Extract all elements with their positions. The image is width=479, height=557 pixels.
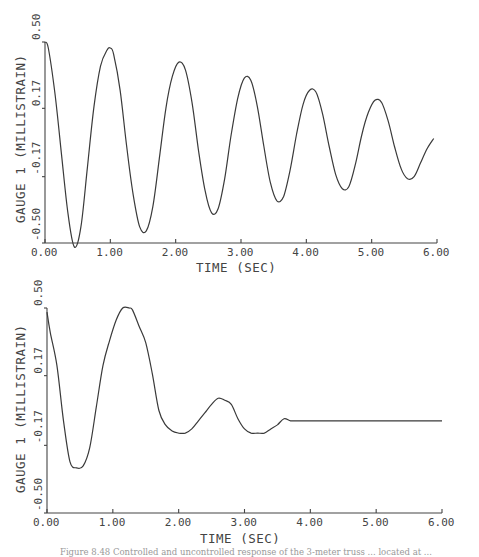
plot-uncontrolled: -0.50-0.170.170.50 0.001.002.003.004.005…	[13, 14, 450, 276]
y-axis-label: GAUGE 1 (MILLISTRAIN)	[13, 324, 28, 493]
x-tick-label: 0.00	[31, 246, 58, 259]
figure-canvas: -0.50-0.170.170.50 0.001.002.003.004.005…	[0, 0, 479, 557]
x-tick-label: 5.00	[358, 246, 385, 259]
x-tick-label: 6.00	[423, 246, 450, 259]
x-tick-label: 6.00	[428, 516, 455, 529]
y-ticks: -0.50-0.170.170.50	[30, 14, 45, 244]
y-tick-label: 0.17	[32, 347, 45, 374]
x-tick-label: 3.00	[227, 246, 254, 259]
y-axis-label: GAUGE 1 (MILLISTRAIN)	[13, 54, 28, 223]
x-tick-label: 5.00	[362, 516, 389, 529]
trace-controlled	[47, 307, 442, 468]
y-tick-label: -0.17	[32, 410, 45, 443]
plot-controlled: -0.50-0.170.170.50 0.001.002.003.004.005…	[13, 280, 455, 547]
x-axis-label: TIME (SEC)	[196, 260, 276, 275]
y-tick-label: 0.50	[30, 14, 43, 41]
x-tick-label: 3.00	[231, 516, 258, 529]
y-tick-label: -0.50	[32, 478, 45, 511]
figure-caption: Figure 8.48 Controlled and uncontrolled …	[60, 547, 479, 557]
x-axis-label: TIME (SEC)	[200, 531, 280, 546]
x-tick-label: 2.00	[162, 246, 189, 259]
trace-uncontrolled	[45, 42, 434, 247]
x-ticks: 0.001.002.003.004.005.006.00	[31, 239, 450, 259]
x-tick-label: 4.00	[296, 516, 323, 529]
y-tick-label: -0.17	[30, 142, 43, 175]
x-ticks: 0.001.002.003.004.005.006.00	[33, 509, 455, 529]
y-ticks: -0.50-0.170.170.50	[32, 280, 47, 514]
x-tick-label: 1.00	[96, 246, 123, 259]
x-tick-label: 0.00	[33, 516, 60, 529]
x-tick-label: 1.00	[99, 516, 126, 529]
y-tick-label: -0.50	[30, 208, 43, 241]
y-tick-label: 0.17	[30, 80, 43, 107]
y-tick-label: 0.50	[32, 280, 45, 307]
x-tick-label: 4.00	[292, 246, 319, 259]
x-tick-label: 2.00	[165, 516, 192, 529]
